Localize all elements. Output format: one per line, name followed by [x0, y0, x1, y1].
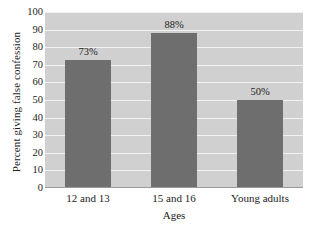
- y-axis-tick-label: 40: [22, 113, 43, 123]
- y-axis-tick-label: 70: [22, 60, 43, 70]
- bar-value-label: 50%: [230, 86, 290, 98]
- y-axis-tick-label: 30: [22, 130, 43, 140]
- y-axis-tick-label: 60: [22, 77, 43, 87]
- x-axis-tick-label: 12 and 13: [45, 191, 131, 205]
- x-axis-title: Ages: [45, 208, 303, 222]
- x-axis-tick-label: 15 and 16: [131, 191, 217, 205]
- x-axis-line: [45, 187, 303, 188]
- x-axis-tick-label: Young adults: [217, 191, 303, 205]
- plot-area: 73%88%50%: [45, 12, 303, 188]
- y-axis-tick-label: 90: [22, 25, 43, 35]
- bar: [65, 60, 111, 188]
- bar-chart: Percent giving false confession 01020304…: [0, 0, 311, 230]
- y-axis-tick-label: 80: [22, 42, 43, 52]
- y-axis-tick-label: 0: [22, 183, 43, 193]
- bar-value-label: 73%: [58, 46, 118, 58]
- y-axis-tick-label: 10: [22, 165, 43, 175]
- bar-value-label: 88%: [144, 19, 204, 31]
- x-axis-tick-labels: 12 and 1315 and 16Young adults: [45, 191, 303, 207]
- y-axis-tick-label: 100: [22, 7, 43, 17]
- y-axis-tick-labels: 0102030405060708090100: [22, 12, 43, 188]
- bar: [151, 33, 197, 188]
- bar: [237, 100, 283, 188]
- y-axis-tick-label: 20: [22, 148, 43, 158]
- y-axis-tick-label: 50: [22, 95, 43, 105]
- gridline: [45, 12, 303, 13]
